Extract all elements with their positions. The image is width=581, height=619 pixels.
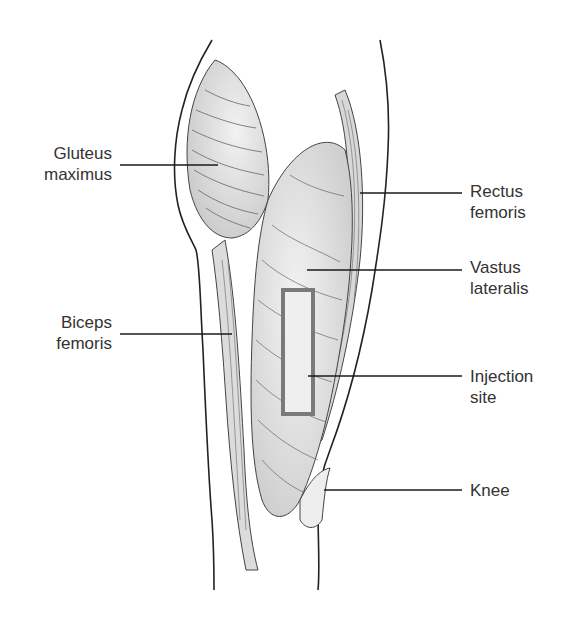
injection-site-rectangle [283, 290, 313, 414]
gluteus-maximus-muscle [187, 60, 269, 238]
label-vastus-lateralis: Vastus lateralis [470, 257, 570, 299]
label-injection-site: Injection site [470, 366, 570, 408]
label-gluteus-maximus: Gluteus maximus [20, 143, 112, 185]
thigh-anatomy-illustration [0, 0, 581, 619]
label-knee: Knee [470, 480, 570, 501]
label-rectus-femoris: Rectus femoris [470, 181, 570, 223]
label-biceps-femoris: Biceps femoris [20, 312, 112, 354]
